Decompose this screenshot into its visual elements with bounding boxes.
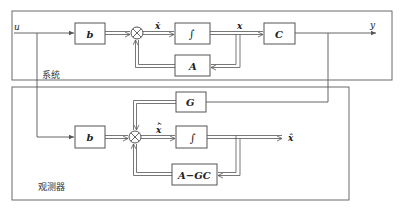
- wire-G-to-sum: [134, 101, 177, 131]
- observer-A-GC-label: A−GC: [177, 170, 211, 181]
- system-group-label: 系统: [42, 69, 60, 80]
- signal-y-label: y: [369, 20, 376, 30]
- signal-u-label: u: [14, 22, 20, 32]
- system-integrator-label: ∫: [189, 28, 195, 41]
- observer-group-label: 观测器: [38, 182, 65, 192]
- observer-sum-junction: [129, 131, 141, 143]
- wire-xhat-to-AGC: [218, 136, 236, 173]
- observer-block-diagram: u b ẋ ∫ x A C y 系统 G b x · ^ ∫ x̂ A−GC 观…: [0, 0, 400, 208]
- signal-xhat-label: x̂: [287, 133, 294, 143]
- wire-AGC-to-sum: [137, 144, 173, 173]
- system-sum-junction: [131, 27, 143, 39]
- wire-u-to-observer-b: [37, 33, 74, 137]
- signal-xdot-label: ẋ: [154, 21, 161, 31]
- observer-b-label: b: [87, 132, 94, 143]
- wire-A-to-sum: [139, 40, 176, 65]
- system-A-label: A: [188, 61, 197, 72]
- svg-text:^: ^: [157, 121, 163, 130]
- observer-G-label: G: [186, 97, 195, 108]
- signal-x-label: x: [236, 21, 243, 31]
- system-b-label: b: [87, 29, 94, 40]
- wire-x-to-A: [211, 35, 236, 65]
- system-C-label: C: [275, 29, 283, 40]
- observer-integrator-label: ∫: [190, 132, 196, 145]
